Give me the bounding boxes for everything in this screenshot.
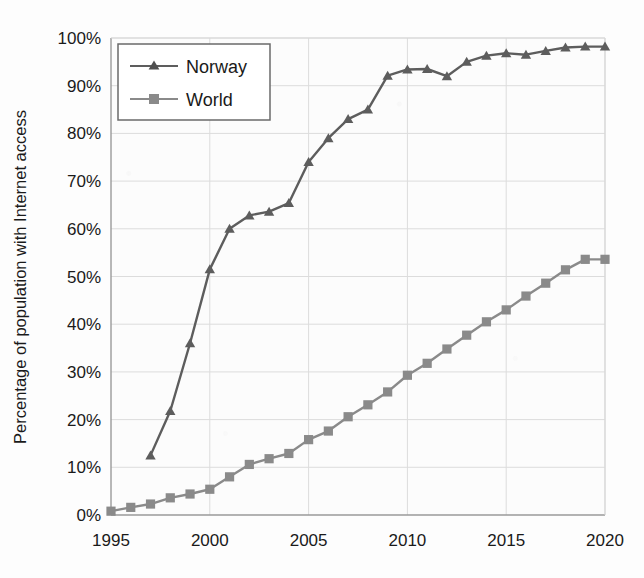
data-point-marker (205, 485, 214, 494)
x-tick-label: 2005 (290, 531, 328, 550)
data-point-marker (363, 400, 372, 409)
data-point-marker (264, 454, 273, 463)
data-point-marker (581, 255, 590, 264)
data-point-marker (106, 507, 115, 516)
y-tick-label: 100% (58, 29, 101, 48)
data-point-marker (126, 503, 135, 512)
chart-legend: Norway World (118, 44, 270, 120)
data-point-marker (561, 265, 570, 274)
y-tick-label: 20% (67, 411, 101, 430)
data-point-marker (403, 371, 412, 380)
y-tick-label: 10% (67, 458, 101, 477)
data-point-marker (166, 493, 175, 502)
square-marker-icon (149, 94, 159, 104)
data-point-marker (442, 344, 451, 353)
data-point-marker (225, 472, 234, 481)
data-point-marker (521, 291, 530, 300)
x-tick-label: 2010 (388, 531, 426, 550)
data-point-marker (541, 279, 550, 288)
y-axis-title-text: Percentage of population with Internet a… (11, 110, 29, 444)
y-axis-title: Percentage of population with Internet a… (11, 110, 29, 444)
y-tick-label: 90% (67, 77, 101, 96)
data-point-marker (284, 449, 293, 458)
x-tick-label: 2015 (487, 531, 525, 550)
data-point-marker (245, 460, 254, 469)
data-point-marker (344, 412, 353, 421)
data-point-marker (462, 331, 471, 340)
data-point-marker (600, 255, 609, 264)
chart-figure: 0%10%20%30%40%50%60%70%80%90%100% 199520… (0, 0, 644, 578)
data-point-marker (383, 387, 392, 396)
y-tick-label: 80% (67, 124, 101, 143)
data-point-marker (324, 426, 333, 435)
y-tick-label: 30% (67, 363, 101, 382)
y-tick-label: 60% (67, 220, 101, 239)
internet-access-line-chart: 0%10%20%30%40%50%60%70%80%90%100% 199520… (0, 0, 644, 578)
data-point-marker (146, 499, 155, 508)
data-point-marker (502, 305, 511, 314)
y-tick-label: 40% (67, 315, 101, 334)
y-tick-label: 70% (67, 172, 101, 191)
legend-label-world: World (186, 90, 233, 110)
data-point-marker (185, 489, 194, 498)
x-tick-label: 2020 (586, 531, 624, 550)
data-point-marker (423, 359, 432, 368)
y-tick-label: 0% (76, 506, 101, 525)
y-tick-label: 50% (67, 268, 101, 287)
data-point-marker (304, 435, 313, 444)
data-point-marker (482, 317, 491, 326)
x-tick-label: 2000 (191, 531, 229, 550)
x-tick-label: 1995 (92, 531, 130, 550)
legend-label-norway: Norway (186, 57, 247, 77)
